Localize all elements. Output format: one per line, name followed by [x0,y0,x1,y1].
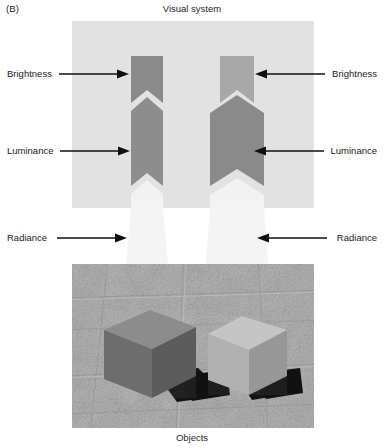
arrow-right-icon [60,145,130,157]
luminance-left-label: Luminance [7,143,53,159]
radiance-left-group: Radiance [0,230,127,246]
luminance-arrow-right [210,95,264,186]
annotation-row-brightness: Brightness Brightness [0,66,384,82]
luminance-right-group: Luminance [254,143,384,159]
luminance-right-label: Luminance [331,143,377,159]
luminance-left-group: Luminance [0,143,130,159]
radiance-beam-head-right [210,178,264,208]
annotation-row-luminance: Luminance Luminance [0,143,384,159]
visual-system-title: Visual system [0,3,384,14]
brightness-left-label: Brightness [7,66,52,82]
brightness-left-group: Brightness [0,66,129,82]
annotation-row-radiance: Radiance Radiance [0,230,384,246]
radiance-beam-head-left [131,180,163,208]
objects-scene-photo [72,264,314,428]
radiance-right-label: Radiance [337,230,377,246]
arrow-right-icon [57,232,127,244]
arrow-left-icon [254,145,324,157]
arrow-left-icon [255,68,325,80]
objects-scene-svg [72,264,314,428]
luminance-arrow-left [131,97,163,186]
brightness-right-label: Brightness [332,66,377,82]
visual-system-shapes [72,21,314,208]
brightness-right-group: Brightness [255,66,384,82]
radiance-right-group: Radiance [257,230,384,246]
objects-title: Objects [0,432,384,443]
arrow-left-icon [257,232,327,244]
arrow-right-icon [59,68,129,80]
radiance-left-label: Radiance [7,230,47,246]
